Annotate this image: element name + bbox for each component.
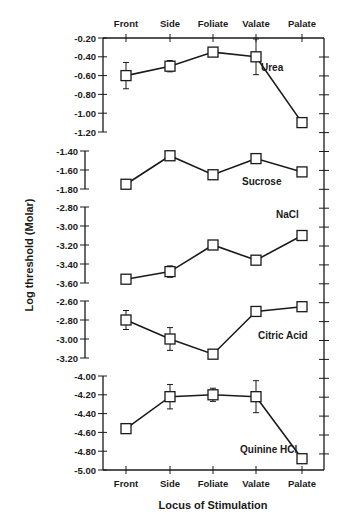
x-axis-label: Locus of Stimulation bbox=[159, 499, 268, 511]
left-axis-tick-label: -1.60 bbox=[56, 165, 78, 176]
left-axis-tick-label: -4.00 bbox=[74, 371, 96, 382]
data-point-marker bbox=[297, 302, 307, 312]
data-point-marker bbox=[121, 179, 131, 189]
data-point-marker bbox=[208, 240, 218, 250]
panels-group: -0.20-0.40-0.60-0.80-1.00-1.20Urea-1.40-… bbox=[56, 33, 307, 476]
data-point-marker bbox=[165, 267, 175, 277]
data-point-marker bbox=[251, 392, 261, 402]
bottom-x-tick-label: Side bbox=[160, 478, 180, 489]
data-point-marker bbox=[121, 274, 131, 284]
left-axis-tick-label: -0.80 bbox=[74, 89, 96, 100]
data-point-marker bbox=[165, 61, 175, 71]
top-x-tick-label: Valate bbox=[242, 18, 269, 29]
panel-urea: -0.20-0.40-0.60-0.80-1.00-1.20Urea bbox=[74, 33, 307, 138]
left-axis-tick-label: -2.80 bbox=[56, 202, 78, 213]
data-point-marker bbox=[208, 170, 218, 180]
data-point-marker bbox=[208, 349, 218, 359]
bottom-x-tick-label: Front bbox=[114, 478, 139, 489]
data-point-marker bbox=[121, 71, 131, 81]
axes-group: FrontFrontSideSideFoliateFoliateValateVa… bbox=[103, 18, 329, 489]
data-point-marker bbox=[251, 306, 261, 316]
top-x-tick-label: Side bbox=[160, 18, 180, 29]
top-x-tick-label: Foliate bbox=[198, 18, 229, 29]
left-axis-tick-label: -4.20 bbox=[74, 389, 96, 400]
series-label: Sucrose bbox=[242, 176, 282, 187]
data-point-marker bbox=[297, 231, 307, 241]
panel-citric-acid: -2.60-2.80-3.00-3.20Citric Acid bbox=[56, 296, 307, 364]
series-label: NaCl bbox=[276, 209, 299, 220]
data-point-marker bbox=[251, 154, 261, 164]
data-point-marker bbox=[297, 454, 307, 464]
left-axis-tick-label: -3.60 bbox=[56, 278, 78, 289]
data-point-marker bbox=[251, 52, 261, 62]
chart-canvas: FrontFrontSideSideFoliateFoliateValateVa… bbox=[0, 0, 346, 531]
data-point-marker bbox=[165, 151, 175, 161]
panel-quinine-hcl: -4.00-4.20-4.40-4.60-4.80-5.00Quinine HC… bbox=[74, 371, 307, 476]
left-axis-tick-label: -0.20 bbox=[74, 33, 96, 44]
data-point-marker bbox=[121, 424, 131, 434]
left-axis-tick-label: -1.80 bbox=[56, 184, 78, 195]
left-axis-tick-label: -3.00 bbox=[56, 221, 78, 232]
data-point-marker bbox=[165, 334, 175, 344]
y-axis-label: Log threshold (Molar) bbox=[23, 198, 35, 311]
left-axis-tick-label: -4.60 bbox=[74, 427, 96, 438]
left-axis-tick-label: -4.40 bbox=[74, 408, 96, 419]
left-axis-tick-label: -3.00 bbox=[56, 334, 78, 345]
left-axis-tick-label: -3.40 bbox=[56, 259, 78, 270]
bottom-x-tick-label: Palate bbox=[288, 478, 316, 489]
bottom-x-tick-label: Foliate bbox=[198, 478, 229, 489]
panel-sucrose: -1.40-1.60-1.80Sucrose bbox=[56, 146, 307, 195]
left-axis-tick-label: -2.80 bbox=[56, 315, 78, 326]
series-label: Citric Acid bbox=[258, 330, 308, 341]
left-axis-tick-label: -5.00 bbox=[74, 465, 96, 476]
top-x-tick-label: Palate bbox=[288, 18, 316, 29]
left-axis-tick-label: -0.40 bbox=[74, 51, 96, 62]
top-x-tick-label: Front bbox=[114, 18, 139, 29]
data-point-marker bbox=[165, 392, 175, 402]
data-point-marker bbox=[208, 47, 218, 57]
left-axis-tick-label: -3.20 bbox=[56, 353, 78, 364]
data-point-marker bbox=[121, 315, 131, 325]
panel-nacl: -2.80-3.00-3.20-3.40-3.60NaCl bbox=[56, 202, 307, 289]
series-label: Quinine HCl bbox=[240, 444, 297, 455]
data-point-marker bbox=[297, 167, 307, 177]
series-label: Urea bbox=[261, 62, 284, 73]
bottom-x-tick-label: Valate bbox=[242, 478, 269, 489]
left-axis-tick-label: -1.20 bbox=[74, 127, 96, 138]
left-axis-tick-label: -4.80 bbox=[74, 446, 96, 457]
left-axis-tick-label: -2.60 bbox=[56, 296, 78, 307]
left-axis-tick-label: -1.00 bbox=[74, 108, 96, 119]
data-point-marker bbox=[297, 118, 307, 128]
data-point-marker bbox=[208, 390, 218, 400]
data-point-marker bbox=[251, 255, 261, 265]
left-axis-tick-label: -0.60 bbox=[74, 70, 96, 81]
left-axis-tick-label: -3.20 bbox=[56, 240, 78, 251]
left-axis-tick-label: -1.40 bbox=[56, 146, 78, 157]
